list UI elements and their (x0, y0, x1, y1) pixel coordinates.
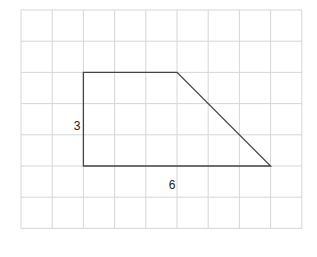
grid-diagram: 3 6 (0, 0, 317, 257)
height-label: 3 (74, 119, 81, 133)
grid (21, 10, 302, 228)
base-label: 6 (169, 178, 176, 192)
